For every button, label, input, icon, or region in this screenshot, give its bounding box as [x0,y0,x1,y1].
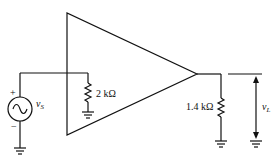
source-label: vS [36,98,44,111]
source-minus-label: − [11,121,17,132]
circuit-diagram: + − vS 2 kΩ 1.4 kΩ vL [0,0,275,163]
ground-icon [82,112,94,118]
input-resistor-label: 2 kΩ [96,88,116,99]
ground-icon [250,141,262,147]
source-plus-label: + [10,87,16,98]
ground-icon [215,141,227,147]
load-resistor-label: 1.4 kΩ [186,101,213,112]
output-voltage-label: vL [262,101,270,114]
amplifier-triangle [67,13,197,135]
resistor-1k4-icon [218,98,224,117]
resistor-2k-icon [85,83,91,102]
ground-icon [14,148,26,154]
